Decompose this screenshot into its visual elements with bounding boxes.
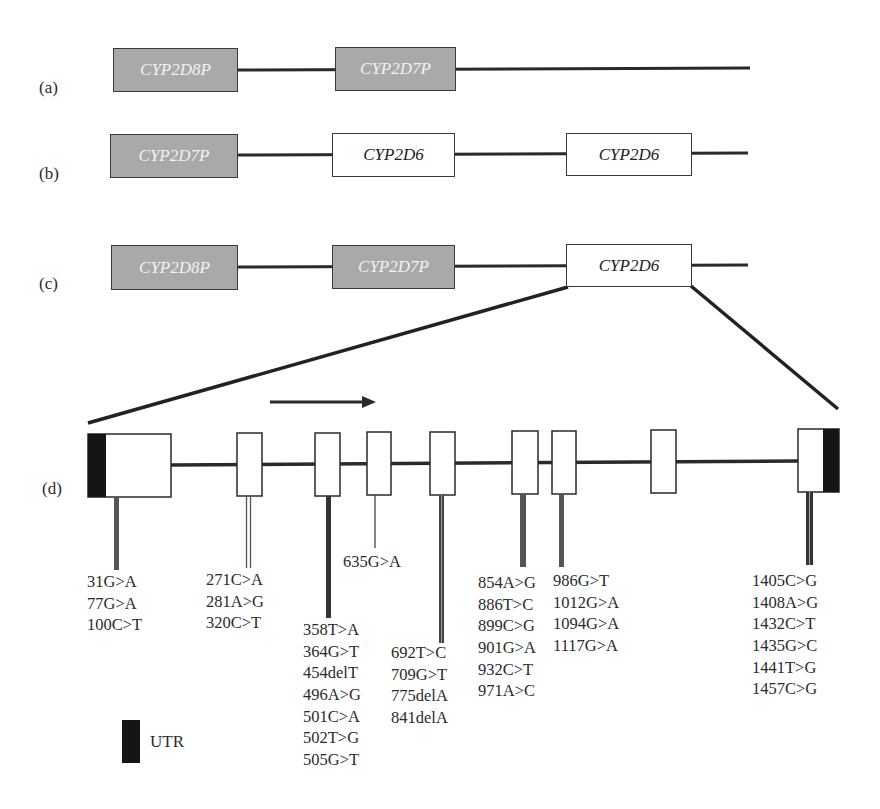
utr-swatch-icon — [122, 720, 140, 763]
variant-list-exon-7: 986G>T 1012G>A 1094G>A 1117G>A — [553, 570, 619, 657]
leader-exon-5 — [439, 495, 444, 643]
variant: 932C>T — [478, 659, 536, 681]
exon-2 — [237, 433, 262, 496]
variant-list-exon-4: 635G>A — [343, 551, 401, 573]
variant: 100C>T — [87, 614, 142, 636]
transcription-arrow-icon — [270, 396, 376, 408]
gene-box-cyp2d8p: CYP2D8P — [111, 245, 238, 290]
variant: 1012G>A — [553, 592, 619, 614]
variant: 1094G>A — [553, 613, 619, 635]
legend-label-utr: UTR — [150, 732, 184, 752]
variant: 454delT — [303, 662, 361, 684]
variant: 899C>G — [478, 615, 536, 637]
row-a-backbone — [237, 68, 750, 70]
variant: 364G>T — [303, 641, 361, 663]
variant: 320C>T — [206, 612, 264, 634]
variant: 281A>G — [206, 591, 264, 613]
gene-name: CYP2D7P — [139, 146, 210, 166]
gene-name: CYP2D6 — [599, 145, 659, 165]
gene-box-cyp2d6: CYP2D6 — [332, 133, 455, 177]
gene-name: CYP2D8P — [139, 258, 210, 278]
variant: 31G>A — [87, 571, 142, 593]
leader-exon-6 — [520, 494, 526, 567]
variant: 502T>G — [303, 727, 361, 749]
panel-label-d: (d) — [42, 478, 62, 500]
row-d-backbone — [171, 461, 798, 465]
variant: 358T>A — [303, 619, 361, 641]
gene-name: CYP2D6 — [363, 145, 423, 165]
variant: 501C>A — [303, 706, 361, 728]
variant: 986G>T — [553, 570, 619, 592]
gene-box-cyp2d7p: CYP2D7P — [332, 245, 455, 289]
variant: 1432C>T — [752, 613, 818, 635]
gene-name: CYP2D7P — [358, 257, 429, 277]
variant: 971A>C — [478, 680, 536, 702]
gene-box-cyp2d6-duplicate: CYP2D6 — [566, 133, 692, 176]
variant-list-exon-2: 271C>A 281A>G 320C>T — [206, 569, 264, 634]
variant: 1457C>G — [752, 678, 818, 700]
variant: 854A>G — [478, 572, 536, 594]
leader-exon-3 — [326, 496, 331, 618]
variant: 1408A>G — [752, 592, 818, 614]
gene-name: CYP2D7P — [360, 59, 431, 79]
leader-exon-7 — [559, 494, 564, 567]
variant: 271C>A — [206, 569, 264, 591]
gene-box-cyp2d7p: CYP2D7P — [110, 134, 238, 178]
panel-label-a: (a) — [39, 77, 58, 99]
variant-list-exon-1: 31G>A 77G>A 100C>T — [87, 571, 142, 636]
exon-1 — [88, 434, 171, 497]
variant-list-exon-3: 358T>A 364G>T 454delT 496A>G 501C>A 502T… — [303, 619, 361, 771]
gene-box-cyp2d6: CYP2D6 — [566, 244, 692, 287]
variant: 505G>T — [303, 749, 361, 771]
variant: 841delA — [391, 707, 448, 729]
variant-list-exon-9: 1405C>G 1408A>G 1432C>T 1435G>C 1441T>G … — [752, 570, 818, 700]
exon-7 — [552, 431, 576, 494]
variant-list-exon-5: 692T>C 709G>T 775delA 841delA — [391, 642, 448, 729]
variant: 692T>C — [391, 642, 448, 664]
variant: 901G>A — [478, 637, 536, 659]
variant: 1405C>G — [752, 570, 818, 592]
variant: 775delA — [391, 685, 448, 707]
exon-8 — [651, 430, 676, 493]
panel-label-c: (c) — [39, 273, 58, 295]
legend: UTR — [122, 720, 184, 763]
gene-box-cyp2d8p: CYP2D8P — [113, 48, 238, 92]
zoom-line-right — [691, 286, 838, 409]
variant: 886T>C — [478, 594, 536, 616]
gene-name: CYP2D6 — [599, 256, 659, 276]
leader-exon-9 — [806, 492, 813, 565]
utr-5prime — [88, 434, 106, 497]
exon-3 — [315, 433, 340, 496]
leader-exon-2 — [247, 496, 251, 568]
variant: 1441T>G — [752, 657, 818, 679]
exon-9 — [798, 429, 839, 492]
exon-6 — [512, 431, 538, 494]
exon-5 — [430, 432, 455, 495]
variant-list-exon-6: 854A>G 886T>C 899C>G 901G>A 932C>T 971A>… — [478, 572, 536, 702]
variant: 77G>A — [87, 593, 142, 615]
variant: 1435G>C — [752, 635, 818, 657]
cyp2d-locus-diagram: (a) (b) (c) (d) CYP2D8P CYP2D7P CYP2D7P … — [0, 0, 880, 809]
variant: 635G>A — [343, 551, 401, 573]
utr-3prime — [823, 429, 839, 492]
gene-name: CYP2D8P — [140, 60, 211, 80]
leader-exon-1 — [114, 497, 119, 570]
exon-4 — [367, 432, 391, 495]
variant: 1117G>A — [553, 635, 619, 657]
variant: 496A>G — [303, 684, 361, 706]
gene-box-cyp2d7p: CYP2D7P — [335, 47, 456, 91]
variant: 709G>T — [391, 664, 448, 686]
panel-label-b: (b) — [39, 163, 59, 185]
